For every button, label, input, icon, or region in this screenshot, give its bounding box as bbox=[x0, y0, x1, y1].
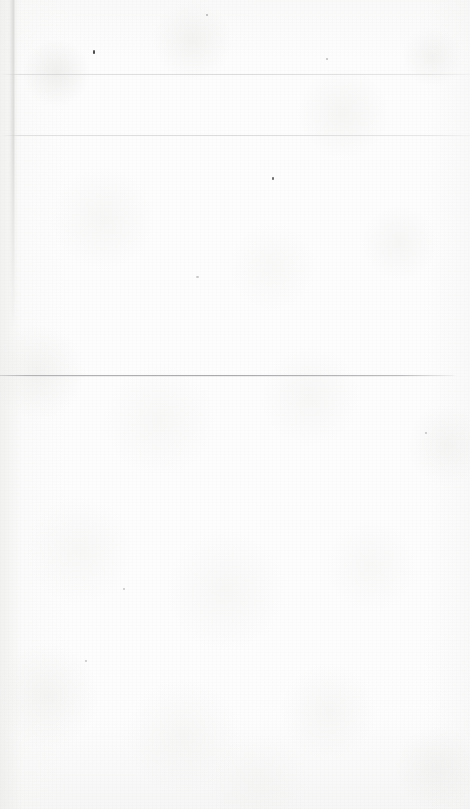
page-text-content bbox=[0, 0, 470, 809]
scanned-page bbox=[0, 0, 470, 809]
